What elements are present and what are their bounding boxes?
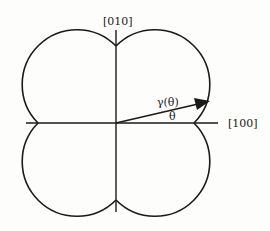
axis-010-label: [010]: [103, 15, 133, 28]
axis-100-label: [100]: [228, 117, 258, 130]
lobe-upper-right: [116, 30, 210, 123]
theta-label: θ: [169, 110, 176, 123]
lobe-upper-left: [22, 30, 116, 123]
gamma-theta-label: γ(θ): [157, 96, 179, 109]
polar-surface-energy-diagram: [010] [100] γ(θ) θ: [0, 0, 270, 231]
lobe-lower-right: [116, 123, 210, 216]
lobe-lower-left: [22, 123, 116, 216]
